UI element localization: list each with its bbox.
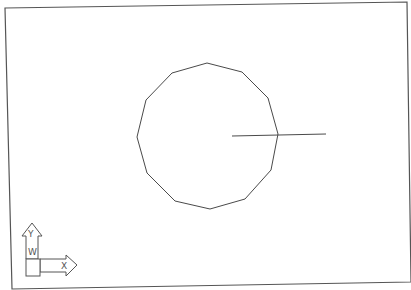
ucs-x-label: X: [61, 261, 67, 271]
radius-line[interactable]: [232, 134, 326, 136]
ucs-origin-box: [26, 259, 40, 276]
dodecagon-shape[interactable]: [137, 63, 278, 209]
ucs-x-arrow-icon: [40, 255, 77, 276]
ucs-icon: Y W X: [22, 223, 77, 276]
ucs-y-label: Y: [27, 229, 34, 239]
ucs-w-label: W: [28, 247, 37, 257]
viewport-frame: [5, 2, 411, 289]
drawing-canvas[interactable]: Y W X: [0, 0, 411, 290]
